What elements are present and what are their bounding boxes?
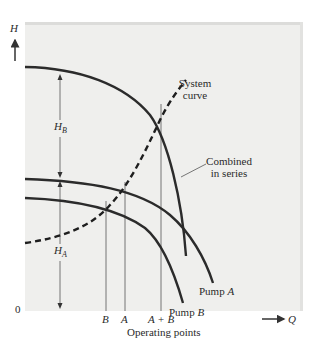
combined-curve-label: Combined in series xyxy=(203,155,255,179)
system-curve xyxy=(25,80,186,243)
pump-b-label: Pump B xyxy=(169,306,204,318)
ha-label: HA xyxy=(53,244,68,261)
operating-point-ab-label: A + B xyxy=(148,313,174,325)
combined-curve xyxy=(25,67,186,256)
operating-point-a-label: A xyxy=(121,313,128,325)
pump-b-curve xyxy=(25,198,183,303)
system-curve-label: System curve xyxy=(172,77,218,101)
origin-label: 0 xyxy=(15,303,21,315)
x-axis-label: Q xyxy=(288,313,296,325)
pump-a-curve xyxy=(25,179,213,283)
operating-point-b-label: B xyxy=(102,313,109,325)
x-axis-caption: Operating points xyxy=(127,326,201,338)
pump-a-label: Pump A xyxy=(199,285,234,297)
y-axis-label: H xyxy=(10,22,18,34)
diagram-svg xyxy=(0,0,317,355)
hb-label: HB xyxy=(53,120,68,137)
